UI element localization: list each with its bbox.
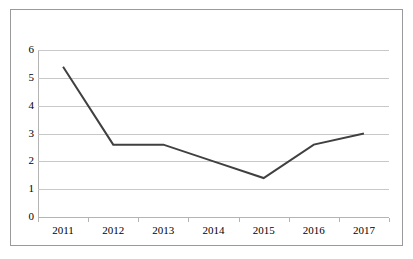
gridline-y-2 — [38, 161, 389, 162]
x-tick-mark-2016 — [289, 218, 290, 222]
x-tick-mark-2017 — [339, 218, 340, 222]
gridline-y-4 — [38, 106, 389, 107]
x-tick-label-2013: 2013 — [138, 224, 188, 236]
x-tick-mark-2014 — [188, 218, 189, 222]
chart-page: 0123456 2011201220132014201520162017 — [0, 0, 413, 259]
gridline-y-0 — [38, 217, 389, 218]
x-tick-mark-2015 — [239, 218, 240, 222]
x-tick-label-2017: 2017 — [339, 224, 389, 236]
gridline-y-1 — [38, 189, 389, 190]
y-axis-labels: 0123456 — [14, 0, 34, 259]
x-tick-label-2011: 2011 — [38, 224, 88, 236]
y-tick-label-4: 4 — [18, 100, 34, 111]
x-tick-mark-2013 — [138, 218, 139, 222]
gridline-y-6 — [38, 50, 389, 51]
y-tick-label-0: 0 — [18, 211, 34, 222]
y-tick-label-2: 2 — [18, 155, 34, 166]
x-tick-label-2014: 2014 — [189, 224, 239, 236]
x-tick-label-2012: 2012 — [88, 224, 138, 236]
y-tick-label-5: 5 — [18, 72, 34, 83]
chart-title — [0, 0, 413, 7]
gridline-y-3 — [38, 134, 389, 135]
chart-caption — [12, 249, 312, 258]
y-tick-label-1: 1 — [18, 183, 34, 194]
x-tick-label-2016: 2016 — [289, 224, 339, 236]
x-tick-mark-2011 — [38, 218, 39, 222]
plot-area — [38, 50, 389, 217]
y-tick-label-6: 6 — [18, 44, 34, 55]
gridline-y-5 — [38, 78, 389, 79]
x-tick-mark-end — [389, 218, 390, 222]
x-tick-mark-2012 — [88, 218, 89, 222]
x-tick-label-2015: 2015 — [239, 224, 289, 236]
y-tick-label-3: 3 — [18, 128, 34, 139]
